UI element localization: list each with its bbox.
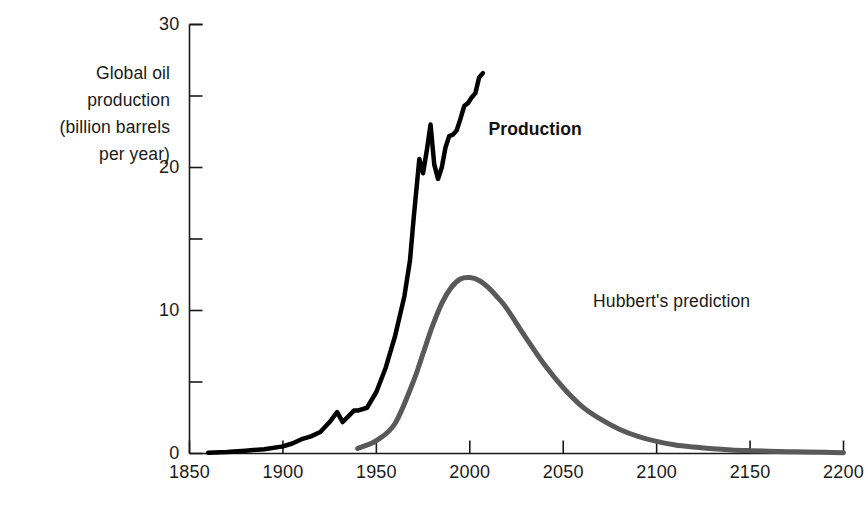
x-tick-label: 2000: [425, 462, 515, 483]
y-tick-label: 10: [128, 300, 180, 321]
series-line-production: [208, 73, 483, 453]
caption-cutoff-strip: [8, 498, 428, 508]
series-label-production: Production: [488, 119, 581, 140]
plot-area: [0, 0, 865, 509]
x-tick-label: 1900: [238, 462, 328, 483]
x-tick-label: 2200: [799, 462, 865, 483]
y-tick-label: 0: [128, 443, 180, 464]
y-tick-label: 30: [128, 14, 180, 35]
x-tick-label: 1950: [331, 462, 421, 483]
y-tick-label: 20: [128, 157, 180, 178]
series-label-hubbert-prediction: Hubbert's prediction: [593, 291, 750, 312]
x-tick-label: 2050: [518, 462, 608, 483]
x-tick-label: 2100: [612, 462, 702, 483]
x-tick-label: 2150: [705, 462, 795, 483]
x-tick-label: 1850: [145, 462, 235, 483]
axes-layer: [190, 25, 844, 454]
chart-root: Global oil production (billion barrels p…: [0, 0, 865, 509]
